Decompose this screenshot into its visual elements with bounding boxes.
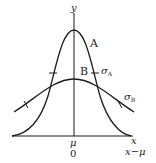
y-axis-label: y: [70, 2, 77, 13]
sigma-a-label: σA: [101, 65, 113, 77]
curve-a-label: A: [89, 37, 99, 50]
curve-a: [12, 30, 131, 136]
curve-b-label: B: [80, 65, 88, 78]
normal-curves-diagram: y A B σA σB μ 0 x x−μ: [0, 0, 156, 163]
x-minus-mu-label: x−μ: [125, 146, 146, 157]
zero-tick-label: 0: [70, 148, 76, 159]
sigma-b-label: σB: [124, 91, 136, 103]
mu-tick-label: μ: [70, 137, 77, 148]
x-axis-label: x: [131, 135, 137, 146]
